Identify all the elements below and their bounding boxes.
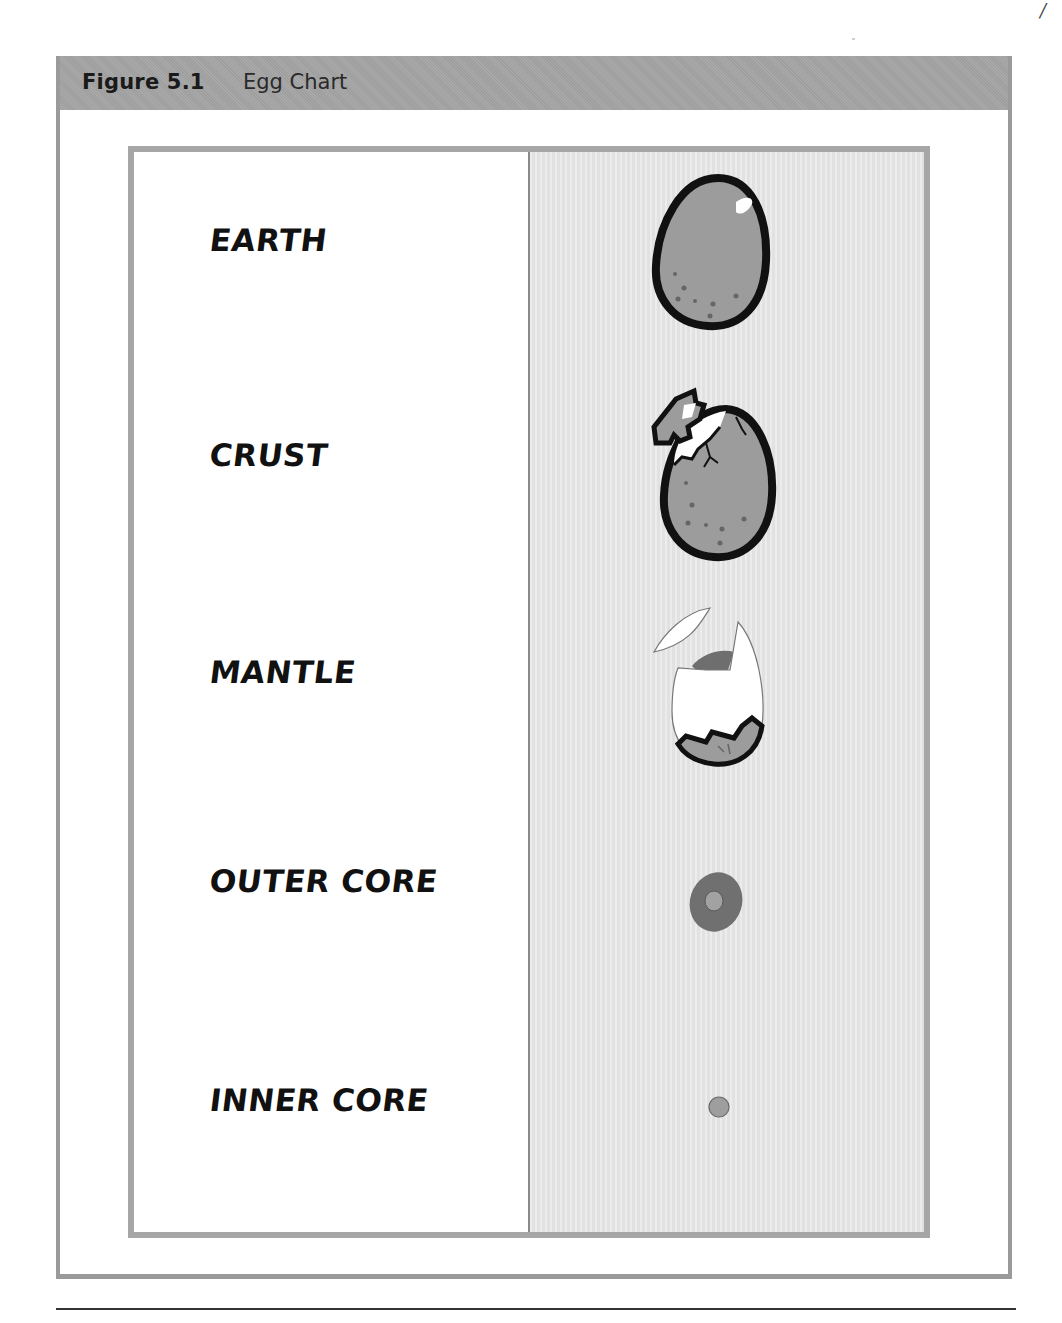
figure-number: Figure 5.1 [82,70,205,94]
image-cell [530,1014,924,1232]
image-cell [530,582,924,797]
cracked-egg-icon [626,377,786,567]
label-cell: CRUST [134,367,530,582]
row-label: EARTH [209,222,329,258]
page-bottom-rule [56,1308,1016,1310]
page-corner-mark: / [1040,0,1046,21]
table-row-crust: CRUST [134,367,924,584]
yolk-ring-icon [686,867,746,937]
label-cell: MANTLE [134,582,530,797]
image-cell [530,152,924,367]
table-row-outer-core: OUTER CORE [134,797,924,1016]
row-label: INNER CORE [209,1082,430,1118]
label-cell: EARTH [134,152,530,367]
image-cell [530,797,924,1014]
table-row-mantle: MANTLE [134,582,924,799]
row-label: OUTER CORE [209,863,439,899]
table-row-earth: EARTH [134,152,924,369]
image-cell [530,367,924,582]
scan-speck [852,38,855,40]
row-label: MANTLE [209,654,357,690]
table-row-inner-core: INNER CORE [134,1014,924,1232]
small-yolk-dot-icon [706,1094,732,1120]
shell-opened-egg-icon [650,594,780,774]
label-cell: OUTER CORE [134,797,530,1014]
label-cell: INNER CORE [134,1014,530,1232]
egg-chart-table: EARTH CRUST [128,146,930,1238]
figure-header-bar: Figure 5.1 Egg Chart [60,56,1008,110]
whole-egg-icon [640,166,780,336]
row-label: CRUST [209,437,329,473]
figure-title: Egg Chart [243,70,347,94]
